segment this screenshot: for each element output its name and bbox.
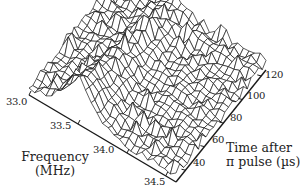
- frequency-tick-mark-3: [166, 172, 168, 176]
- time-tick-mark-1: [200, 146, 204, 147]
- time-tick-80: 80: [230, 112, 242, 123]
- freq-tick-34-5: 34.5: [144, 176, 165, 187]
- freq-tick-33-5: 33.5: [50, 120, 71, 131]
- time-axis-title-line1: Time after: [226, 141, 306, 155]
- time-tick-mark-0: [181, 169, 185, 170]
- frequency-axis-title-line1: Frequency: [20, 150, 90, 164]
- time-axis-title-line2: π pulse (µs): [226, 155, 306, 169]
- freq-tick-33-0: 33.0: [6, 96, 27, 107]
- frequency-axis-title: Frequency (MHz): [20, 150, 90, 178]
- time-tick-mark-4: [257, 75, 261, 76]
- frequency-tick-mark-2: [127, 149, 129, 153]
- time-tick-60: 60: [212, 134, 224, 145]
- time-axis-title: Time after π pulse (µs): [226, 141, 306, 169]
- surface-plot: 33.0 33.5 34.0 34.5 40 60 80 100 120 Fre…: [0, 0, 306, 193]
- freq-tick-34-0: 34.0: [93, 144, 114, 155]
- time-tick-100: 100: [247, 90, 265, 101]
- time-tick-120: 120: [265, 69, 283, 80]
- frequency-tick-mark-0: [29, 91, 31, 95]
- frequency-tick-mark-1: [78, 120, 80, 124]
- time-tick-mark-2: [219, 122, 223, 123]
- frequency-axis-title-line2: (MHz): [20, 164, 90, 178]
- time-tick-40: 40: [193, 157, 205, 168]
